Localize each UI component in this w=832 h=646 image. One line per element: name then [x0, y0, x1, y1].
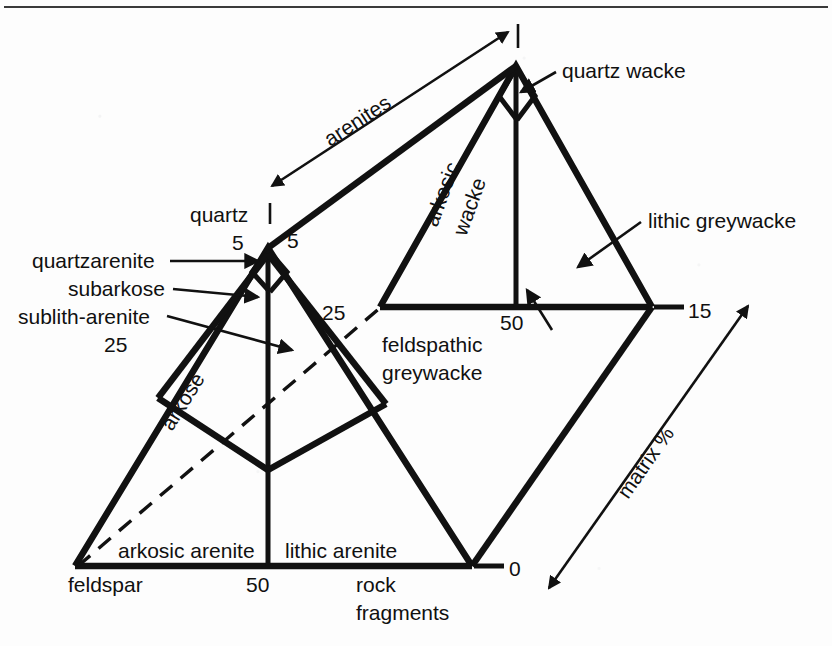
label-subarkose: subarkose — [68, 277, 165, 300]
value-right-five: 5 — [287, 229, 299, 252]
label-lithic-arenite: lithic arenite — [285, 539, 397, 562]
label-feldspathic-greywacke-line2: greywacke — [382, 361, 482, 384]
label-quartz-wacke: quartz wacke — [562, 59, 686, 82]
label-arkosic-arenite: arkosic arenite — [118, 539, 255, 562]
label-quartzarenite: quartzarenite — [32, 249, 155, 272]
value-matrix-zero: 0 — [509, 557, 521, 580]
label-sublith-arenite: sublith-arenite — [18, 305, 150, 328]
figure-page: quartz 5 5 quartzarenite subarkose subli… — [0, 0, 832, 646]
value-wacke-fifty: 50 — [500, 311, 523, 334]
label-feldspar: feldspar — [68, 573, 143, 596]
label-feldspathic-greywacke-line1: feldspathic — [382, 333, 482, 356]
label-quartz: quartz — [190, 203, 248, 226]
value-base-fifty: 50 — [246, 573, 269, 596]
value-matrix-fifteen: 15 — [688, 299, 711, 322]
value-right-twentyfive: 25 — [322, 301, 345, 324]
value-left-five: 5 — [232, 231, 244, 254]
value-left-twentyfive: 25 — [104, 333, 127, 356]
label-rock-fragments-line1: rock — [356, 573, 396, 596]
label-rock-fragments-line2: fragments — [356, 601, 449, 624]
label-lithic-greywacke: lithic greywacke — [648, 209, 796, 232]
sandstone-ternary-diagram: quartz 5 5 quartzarenite subarkose subli… — [0, 0, 832, 646]
